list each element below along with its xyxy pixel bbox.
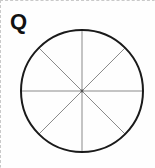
circle-figure xyxy=(1,1,155,168)
circle-diagram-svg xyxy=(1,1,155,168)
question-panel: Q xyxy=(0,0,155,168)
circle-center-dot xyxy=(81,90,84,93)
